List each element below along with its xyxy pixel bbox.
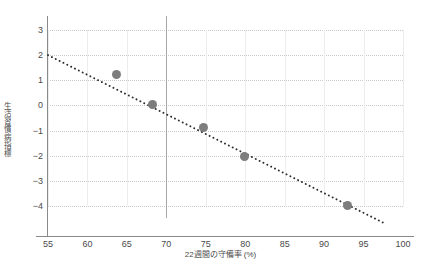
gridline-v-100 <box>403 30 404 206</box>
x-tick-label-95: 95 <box>359 239 369 249</box>
y-tick-label--2: −2 <box>33 151 43 161</box>
data-point <box>148 100 157 109</box>
y-tick-label--1: −1 <box>33 126 43 136</box>
x-tick-label-85: 85 <box>280 239 290 249</box>
y-tick-label--3: −3 <box>33 176 43 186</box>
data-point <box>240 152 249 161</box>
x-axis-title: 22週間の守備率 (%) <box>0 248 441 259</box>
y-tick-label-0: 0 <box>38 100 43 110</box>
y-tick-label-3: 3 <box>38 25 43 35</box>
y-axis-title: 生活習慣病指標 <box>2 103 13 158</box>
x-tick-label-100: 100 <box>395 239 410 249</box>
data-point <box>112 70 121 79</box>
x-axis-line <box>36 236 414 237</box>
x-tick-label-80: 80 <box>240 239 250 249</box>
x-tick-label-90: 90 <box>319 239 329 249</box>
x-tick-label-60: 60 <box>82 239 92 249</box>
data-point <box>343 201 352 210</box>
y-tick-label-2: 2 <box>38 50 43 60</box>
data-point <box>199 123 208 132</box>
data-points-layer <box>48 30 403 206</box>
y-tick-label-1: 1 <box>38 75 43 85</box>
x-tick-label-65: 65 <box>122 239 132 249</box>
y-tick-label--4: −4 <box>33 201 43 211</box>
chart-container: 3210−1−2−3−4 22週間の守備率 (%) 生活習慣病指標 556065… <box>0 0 441 261</box>
x-tick-label-55: 55 <box>43 239 53 249</box>
x-tick-label-75: 75 <box>201 239 211 249</box>
x-tick-label-70: 70 <box>161 239 171 249</box>
